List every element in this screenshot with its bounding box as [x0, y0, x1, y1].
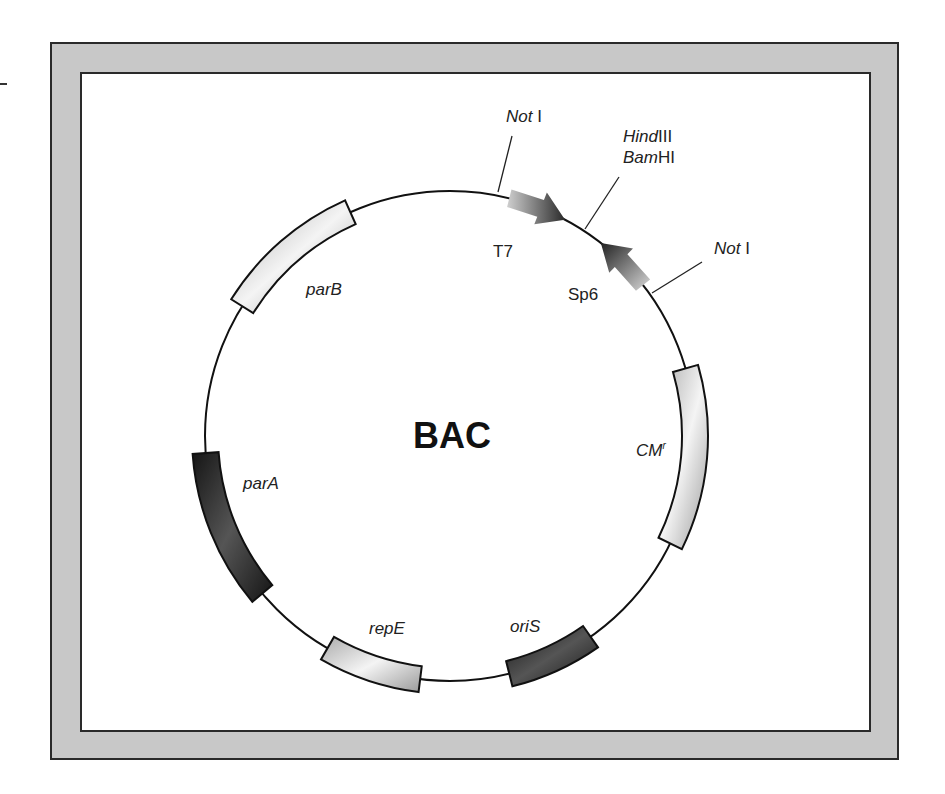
- label-parB: parB: [306, 281, 342, 298]
- not1-top-plain: I: [532, 107, 541, 126]
- not1-top-italic: Not: [506, 107, 532, 126]
- bam-plain: HI: [658, 148, 675, 167]
- label-parA: parA: [243, 475, 279, 492]
- promoter-arrow-sp6: [601, 243, 650, 291]
- not1-right-plain: I: [740, 239, 749, 258]
- bam-italic: Bam: [623, 148, 658, 167]
- plasmid-title: BAC: [413, 418, 491, 454]
- plasmid-map: [0, 0, 945, 794]
- segment-cm: [659, 365, 708, 549]
- label-not1-top: Not I: [506, 108, 542, 125]
- segment-repe: [321, 637, 422, 692]
- cm-superscript: r: [662, 440, 665, 451]
- label-bamhi: BamHI: [623, 149, 675, 166]
- cm-text: CM: [636, 441, 662, 460]
- label-cm-resistance: CMr: [636, 441, 666, 459]
- not1-right-leader: [652, 262, 702, 293]
- label-sp6: Sp6: [568, 286, 598, 303]
- label-hindiii: HindIII: [623, 128, 672, 145]
- not1-top-leader: [498, 136, 512, 192]
- hind-italic: Hind: [623, 127, 658, 146]
- promoter-arrow-t7: [507, 190, 565, 225]
- label-t7: T7: [493, 243, 513, 260]
- label-repE: repE: [369, 620, 405, 637]
- label-not1-right: Not I: [714, 240, 750, 257]
- not1-right-italic: Not: [714, 239, 740, 258]
- hind-plain: III: [658, 127, 672, 146]
- hind-bam-leader: [585, 177, 619, 229]
- label-oriS: oriS: [510, 618, 540, 635]
